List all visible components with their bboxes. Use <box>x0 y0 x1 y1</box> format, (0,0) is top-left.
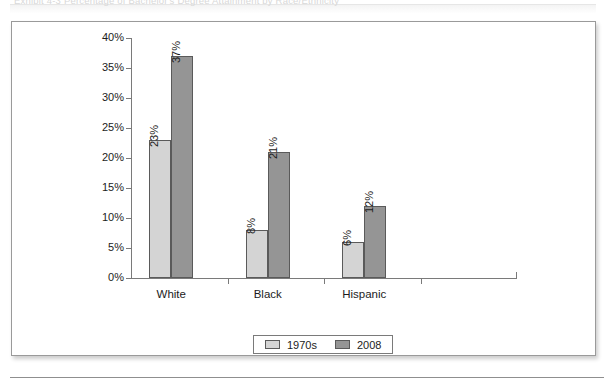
y-axis-tick-mark <box>126 98 131 99</box>
bar-value-label: 12% <box>363 191 375 213</box>
y-axis-tick-label: 10% <box>102 211 124 223</box>
category-label-black: Black <box>254 288 282 300</box>
bar-hispanic-1970s <box>342 242 364 278</box>
y-axis-tick-mark <box>126 38 131 39</box>
y-axis-tick-mark <box>126 188 131 189</box>
y-axis-tick-mark <box>126 218 131 219</box>
category-label-hispanic: Hispanic <box>342 288 386 300</box>
legend-item-1970s: 1970s <box>265 339 317 351</box>
bar-hispanic-2008 <box>364 206 386 278</box>
x-axis-right-cap <box>516 272 517 279</box>
y-axis-tick-label: 0% <box>108 271 124 283</box>
y-axis-tick-label: 20% <box>102 151 124 163</box>
y-axis-tick-mark <box>126 278 131 279</box>
bar-black-2008 <box>268 152 290 278</box>
page-bottom-rule <box>10 377 604 378</box>
exhibit-caption-ghost: Exhibit 4-3 Percentage of Bachelor's Deg… <box>14 0 339 6</box>
y-axis-tick-mark <box>126 248 131 249</box>
x-axis-tick-mark <box>421 278 422 284</box>
bar-value-label: 37% <box>170 41 182 63</box>
y-axis-line <box>131 38 132 279</box>
x-axis-tick-mark <box>324 278 325 284</box>
chart-legend: 1970s 2008 <box>253 335 393 354</box>
bar-value-label: 6% <box>341 230 353 246</box>
legend-swatch-2008 <box>335 340 350 349</box>
bar-white-1970s <box>149 140 171 278</box>
y-axis-tick-mark <box>126 158 131 159</box>
legend-label-2008: 2008 <box>357 339 381 351</box>
plot-area: 0%5%10%15%20%25%30%35%40% 23%37%8%21%6%1… <box>131 38 517 278</box>
legend-item-2008: 2008 <box>335 339 381 351</box>
y-axis-tick-mark <box>126 128 131 129</box>
page-header-strip: Exhibit 4-3 Percentage of Bachelor's Deg… <box>0 0 614 13</box>
bar-value-label: 21% <box>267 137 279 159</box>
x-axis-tick-mark <box>228 278 229 284</box>
category-label-white: White <box>157 288 186 300</box>
legend-swatch-1970s <box>265 340 280 349</box>
y-axis-tick-label: 30% <box>102 91 124 103</box>
bar-white-2008 <box>171 56 193 278</box>
y-axis-tick-label: 5% <box>108 241 124 253</box>
chart-card: 0%5%10%15%20%25%30%35%40% 23%37%8%21%6%1… <box>11 21 596 356</box>
y-axis-tick-label: 40% <box>102 31 124 43</box>
bar-value-label: 23% <box>148 125 160 147</box>
legend-label-1970s: 1970s <box>287 339 317 351</box>
y-axis-tick-label: 15% <box>102 181 124 193</box>
y-axis-tick-label: 35% <box>102 61 124 73</box>
y-axis-tick-mark <box>126 68 131 69</box>
y-axis-tick-label: 25% <box>102 121 124 133</box>
bar-value-label: 8% <box>245 218 257 234</box>
bar-black-1970s <box>246 230 268 278</box>
